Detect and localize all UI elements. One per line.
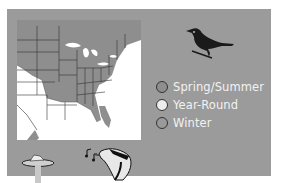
legend-item-year-round: Year-Round [156,96,264,114]
range-map-panel: Spring/Summer Year-Round Winter [7,9,271,176]
legend-swatch-winter [156,117,168,129]
legend-swatch-spring-summer [156,81,168,93]
bird-silhouette-icon [182,23,238,63]
bird-song-group [85,146,145,183]
legend-item-winter: Winter [156,114,264,132]
range-map [17,20,141,140]
range-map-graphic [17,20,141,140]
bird-feeder-icon [20,149,56,183]
legend: Spring/Summer Year-Round Winter [156,78,264,132]
legend-swatch-year-round [156,99,168,111]
legend-label: Year-Round [173,98,238,112]
bird-head-icon [93,149,131,180]
legend-item-spring-summer: Spring/Summer [156,78,264,96]
legend-label: Winter [173,116,212,130]
legend-label: Spring/Summer [173,80,264,94]
